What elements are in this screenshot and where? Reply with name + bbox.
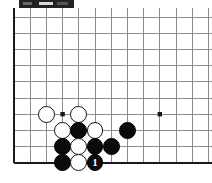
- go-stone-black[interactable]: 1: [87, 154, 104, 171]
- go-diagram-app: 1: [0, 0, 212, 183]
- go-board-grid: [0, 8, 212, 183]
- titlebar-left-mark: [23, 2, 32, 5]
- window-titlebar: [19, 0, 74, 8]
- go-stone-move-number: 1: [88, 155, 103, 170]
- go-board[interactable]: 1: [0, 8, 212, 183]
- titlebar-highlight: [39, 2, 53, 5]
- titlebar-right-mark: [57, 2, 68, 5]
- star-point: [60, 112, 64, 116]
- go-stone-black[interactable]: [103, 138, 120, 155]
- go-stone-white[interactable]: [87, 122, 104, 139]
- go-stone-black[interactable]: [54, 138, 71, 155]
- star-point: [158, 112, 162, 116]
- go-stone-black[interactable]: [119, 122, 136, 139]
- go-stone-black[interactable]: [70, 122, 87, 139]
- go-stone-white[interactable]: [70, 106, 87, 123]
- go-stone-white[interactable]: [38, 106, 55, 123]
- go-stone-white[interactable]: [54, 122, 71, 139]
